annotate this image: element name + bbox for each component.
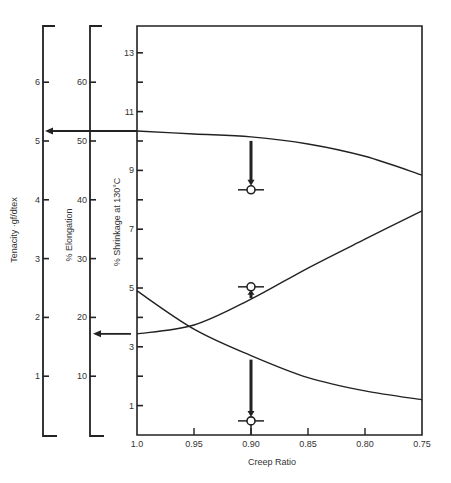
tenacity-tick-label: 6 [35, 77, 40, 87]
tenacity-axis-title: Tenacity ·gf/dtex [9, 197, 19, 263]
open-circle-marker-icon [247, 417, 255, 425]
arrow-down-icon [248, 180, 255, 186]
x-tick-label: 0.75 [413, 439, 431, 449]
labels: 123456102030405060135791113Tenacity ·gf/… [9, 48, 431, 467]
x-axis-title: Creep Ratio [248, 457, 296, 467]
x-tick-label: 0.90 [242, 439, 260, 449]
tenacity-tick-label: 2 [35, 312, 40, 322]
arrow-left-icon [45, 128, 53, 135]
open-circle-marker-icon [247, 186, 255, 194]
creep-ratio-chart: 123456102030405060135791113Tenacity ·gf/… [0, 0, 451, 483]
elongation-tick-label: 10 [77, 371, 87, 381]
shrinkage-axis-title: % Shrinkage at 130°C [112, 177, 122, 266]
shrinkage-tick-label: 11 [125, 107, 134, 117]
shrinkage-tick-label: 5 [129, 283, 134, 293]
tenacity-curve [137, 131, 422, 175]
x-tick-label: 0.80 [356, 439, 374, 449]
shrinkage-curve [137, 291, 422, 400]
curves [137, 131, 422, 400]
tenacity-axis [43, 26, 57, 436]
tenacity-tick-label: 5 [35, 136, 40, 146]
elongation-tick-label: 60 [77, 77, 87, 87]
x-tick-label: 0.95 [185, 439, 203, 449]
elongation-tick-label: 40 [77, 195, 87, 205]
elongation-curve [137, 211, 422, 334]
plot-frame [137, 26, 422, 435]
tenacity-tick-label: 4 [35, 195, 40, 205]
arrow-down-icon [248, 411, 255, 417]
shrinkage-tick-label: 7 [129, 224, 134, 234]
arrow-left-icon [93, 330, 101, 337]
elongation-tick-label: 30 [77, 254, 87, 264]
elongation-axis-title: % Elongation [64, 208, 74, 261]
shrinkage-tick-label: 1 [129, 401, 134, 411]
tenacity-tick-label: 1 [35, 371, 40, 381]
shrinkage-tick-label: 3 [129, 342, 134, 352]
markers [45, 128, 264, 435]
axes [43, 26, 422, 436]
elongation-axis [90, 26, 104, 436]
shrinkage-tick-label: 9 [129, 165, 134, 175]
open-circle-marker-icon [247, 283, 255, 291]
shrinkage-tick-label: 13 [124, 48, 134, 58]
x-tick-label: 1.0 [131, 439, 144, 449]
tenacity-tick-label: 3 [35, 254, 40, 264]
x-tick-label: 0.85 [299, 439, 317, 449]
elongation-tick-label: 20 [77, 312, 87, 322]
elongation-tick-label: 50 [77, 136, 87, 146]
